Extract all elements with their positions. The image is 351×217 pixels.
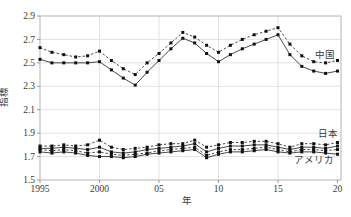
data-point-marker — [86, 148, 89, 151]
data-point-marker — [169, 47, 172, 50]
data-point-marker — [312, 60, 315, 63]
x-tick-label: 1995 — [31, 184, 50, 194]
data-point-marker — [253, 143, 256, 146]
data-point-marker — [300, 142, 303, 145]
data-point-marker — [265, 148, 268, 151]
data-point-marker — [169, 142, 172, 145]
data-point-marker — [193, 41, 196, 44]
data-point-marker — [158, 59, 161, 62]
data-point-marker — [50, 51, 53, 54]
data-point-marker — [74, 61, 77, 64]
data-point-marker — [277, 142, 280, 145]
data-point-marker — [86, 143, 89, 146]
series-line — [40, 28, 338, 75]
data-point-marker — [134, 73, 137, 76]
data-point-marker — [39, 150, 42, 153]
data-point-marker — [300, 54, 303, 57]
data-point-marker — [229, 53, 232, 56]
data-point-marker — [336, 145, 339, 148]
data-point-marker — [288, 53, 291, 56]
data-point-marker — [74, 152, 77, 155]
data-point-marker — [50, 61, 53, 64]
data-point-marker — [312, 70, 315, 73]
data-point-marker — [324, 143, 327, 146]
data-point-marker — [86, 54, 89, 57]
data-point-marker — [110, 146, 113, 149]
data-point-marker — [253, 140, 256, 143]
data-point-marker — [134, 84, 137, 87]
data-point-marker — [169, 150, 172, 153]
data-point-marker — [253, 43, 256, 46]
data-point-marker — [229, 145, 232, 148]
y-tick-label: 1.7 — [23, 152, 35, 162]
y-tick-label: 2.9 — [23, 11, 35, 21]
y-axis-label: 指標 — [0, 87, 9, 107]
data-point-marker — [62, 53, 65, 56]
data-point-marker — [134, 155, 137, 158]
data-point-marker — [205, 156, 208, 159]
data-point-marker — [217, 143, 220, 146]
data-point-marker — [277, 33, 280, 36]
data-point-marker — [336, 70, 339, 73]
data-point-marker — [229, 141, 232, 144]
y-tick-label: 2.1 — [23, 105, 35, 115]
series-label-中国: 中国 — [315, 49, 335, 60]
data-point-marker — [146, 71, 149, 74]
data-point-marker — [217, 147, 220, 150]
data-point-marker — [241, 145, 244, 148]
data-point-marker — [288, 152, 291, 155]
data-point-marker — [336, 148, 339, 151]
data-point-marker — [74, 56, 77, 59]
data-point-marker — [158, 143, 161, 146]
series-label-日本: 日本 — [318, 128, 338, 139]
chart-canvas: 19952000051015202.92.72.52.32.11.91.71.5… — [0, 0, 351, 217]
data-point-marker — [39, 58, 42, 61]
data-point-marker — [324, 61, 327, 64]
data-point-marker — [217, 153, 220, 156]
data-point-marker — [312, 150, 315, 153]
data-point-marker — [193, 36, 196, 39]
data-point-marker — [300, 150, 303, 153]
x-tick-label: 15 — [273, 184, 283, 194]
series-line — [40, 147, 338, 155]
data-point-marker — [169, 41, 172, 44]
data-point-marker — [253, 33, 256, 36]
data-point-marker — [241, 141, 244, 144]
data-point-marker — [98, 139, 101, 142]
series-中国-dashed-0 — [39, 26, 340, 76]
data-point-marker — [98, 150, 101, 153]
data-point-marker — [98, 60, 101, 63]
data-point-marker — [336, 59, 339, 62]
data-point-marker — [146, 148, 149, 151]
data-point-marker — [265, 140, 268, 143]
data-point-marker — [39, 46, 42, 49]
data-point-marker — [300, 65, 303, 68]
data-point-marker — [98, 146, 101, 149]
data-point-marker — [122, 156, 125, 159]
data-point-marker — [205, 150, 208, 153]
data-point-marker — [134, 147, 137, 150]
y-tick-label: 2.3 — [23, 81, 35, 91]
y-tick-label: 1.5 — [23, 175, 35, 185]
data-point-marker — [229, 150, 232, 153]
data-point-marker — [229, 44, 232, 47]
data-point-marker — [205, 44, 208, 47]
data-point-marker — [217, 51, 220, 54]
x-tick-label: 20 — [333, 184, 343, 194]
x-axis-label: 年 — [182, 195, 192, 206]
data-point-marker — [277, 150, 280, 153]
y-tick-label: 1.9 — [23, 128, 35, 138]
data-point-marker — [158, 152, 161, 155]
data-point-marker — [241, 47, 244, 50]
data-point-marker — [181, 37, 184, 40]
data-point-marker — [86, 154, 89, 157]
data-point-marker — [122, 148, 125, 151]
data-point-marker — [265, 30, 268, 33]
data-point-marker — [110, 155, 113, 158]
data-point-marker — [193, 139, 196, 142]
data-point-marker — [62, 61, 65, 64]
data-point-marker — [241, 150, 244, 153]
x-tick-label: 10 — [214, 184, 224, 194]
data-point-marker — [50, 152, 53, 155]
data-point-marker — [122, 77, 125, 80]
